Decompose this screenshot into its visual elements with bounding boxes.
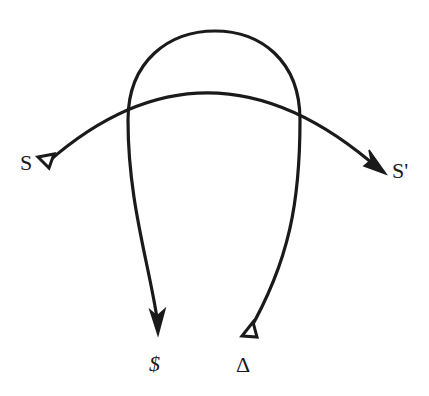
label-dollar: $ — [149, 353, 160, 375]
arrowhead-icon — [364, 150, 386, 174]
start-triangle-icon — [242, 322, 257, 337]
diagram-svg — [0, 0, 429, 396]
diagram-canvas: S S' $ Δ — [0, 0, 429, 396]
label-s: S — [20, 152, 32, 174]
start-triangle-icon — [38, 154, 54, 168]
horizontal-arc — [48, 93, 380, 170]
label-delta: Δ — [236, 354, 250, 376]
u-loop-curve — [128, 31, 300, 333]
label-s-prime: S' — [392, 160, 408, 182]
